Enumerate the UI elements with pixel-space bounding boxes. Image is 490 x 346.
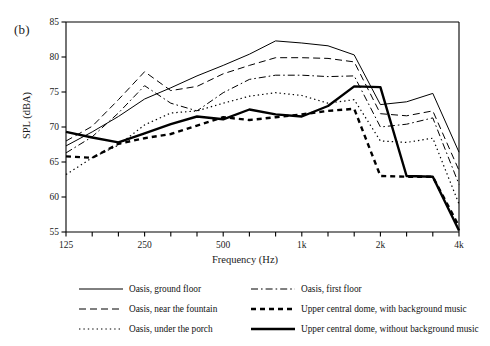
series-line-4 — [66, 109, 459, 227]
legend-line-sample-icon — [250, 303, 296, 315]
x-tick-label: 500 — [216, 240, 231, 250]
x-tick-label: 2k — [376, 240, 386, 250]
legend-item-label: Oasis, first floor — [301, 284, 362, 294]
legend-line-sample-icon — [78, 323, 124, 335]
legend-item-label: Oasis, near the fountain — [129, 304, 217, 314]
legend-line-sample-icon — [78, 303, 124, 315]
legend-item-left-0: Oasis, ground floor — [78, 279, 217, 299]
legend-item-label: Upper central dome, with background musi… — [301, 304, 467, 314]
legend-line-sample-icon — [250, 283, 296, 295]
y-tick-label: 65 — [50, 157, 60, 167]
legend-item-left-1: Oasis, near the fountain — [78, 299, 217, 319]
legend-item-right-2: Upper central dome, without background m… — [250, 319, 479, 339]
y-tick-label: 80 — [50, 52, 60, 62]
y-tick-label: 75 — [50, 87, 60, 97]
y-tick-label: 70 — [50, 122, 60, 132]
chart-legend: Oasis, ground floorOasis, near the fount… — [0, 279, 490, 341]
x-tick-label: 250 — [137, 240, 152, 250]
legend-item-right-0: Oasis, first floor — [250, 279, 479, 299]
x-tick-label: 125 — [59, 240, 74, 250]
legend-item-left-2: Oasis, under the porch — [78, 319, 217, 339]
legend-line-sample-icon — [250, 323, 296, 335]
series-line-5 — [66, 86, 459, 230]
legend-column-right: Oasis, first floorUpper central dome, wi… — [250, 279, 479, 339]
legend-item-right-1: Upper central dome, with background musi… — [250, 299, 479, 319]
series-line-3 — [66, 75, 459, 184]
legend-item-label: Upper central dome, without background m… — [301, 324, 479, 334]
y-tick-label: 60 — [50, 192, 60, 202]
series-line-0 — [66, 41, 459, 152]
x-tick-label: 4k — [454, 240, 464, 250]
series-line-2 — [66, 93, 459, 204]
x-tick-label: 1k — [297, 240, 307, 250]
legend-column-left: Oasis, ground floorOasis, near the fount… — [78, 279, 217, 339]
y-tick-label: 55 — [50, 227, 60, 237]
legend-line-sample-icon — [78, 283, 124, 295]
y-tick-label: 85 — [50, 17, 60, 27]
legend-item-label: Oasis, under the porch — [129, 324, 213, 334]
legend-item-label: Oasis, ground floor — [129, 284, 201, 294]
